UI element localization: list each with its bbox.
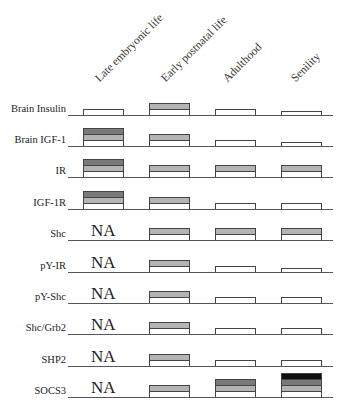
level-bar [83, 128, 124, 146]
row-label: pY-Shc [35, 291, 66, 302]
level-bar [149, 103, 190, 115]
level-bar [149, 291, 190, 303]
level-bar [149, 385, 190, 397]
level-bar [149, 354, 190, 366]
level-bar [281, 111, 322, 115]
level-bar [83, 191, 124, 209]
na-label: NA [91, 253, 116, 273]
level-bar [215, 165, 256, 177]
column-header-0: Late embryonic life [93, 11, 166, 84]
row-label: IGF-1R [33, 197, 66, 208]
column-header-3: Senility [289, 50, 323, 84]
level-bar [149, 197, 190, 209]
level-bar [281, 373, 322, 397]
level-bar [215, 228, 256, 240]
row-label: Brain IGF-1 [14, 134, 66, 145]
level-bar [215, 297, 256, 303]
level-bar [281, 142, 322, 146]
level-bar [149, 228, 190, 240]
level-bar [83, 109, 124, 115]
level-bar [281, 165, 322, 177]
level-bar [281, 268, 322, 272]
level-bar [281, 328, 322, 334]
na-label: NA [91, 315, 116, 335]
row-label: Shc/Grb2 [26, 322, 66, 333]
level-bar [215, 379, 256, 397]
level-bar [215, 360, 256, 366]
row-label: pY-IR [40, 260, 66, 271]
level-bar [149, 322, 190, 334]
level-bar [281, 360, 322, 366]
row-label: SHP2 [41, 354, 66, 365]
column-header-2: Adulthood [221, 41, 264, 84]
column-header-1: Early postnatal life [159, 14, 229, 84]
row-label: Shc [50, 228, 66, 239]
row-baseline [68, 146, 333, 147]
level-bar [281, 203, 322, 209]
na-label: NA [91, 378, 116, 398]
level-bar [215, 140, 256, 146]
level-bar [149, 134, 190, 146]
level-bar [215, 109, 256, 115]
na-label: NA [91, 221, 116, 241]
row-baseline [68, 209, 333, 210]
level-bar [149, 165, 190, 177]
row-label: Brain Insulin [11, 103, 66, 114]
row-label: IR [56, 165, 67, 176]
level-bar [215, 203, 256, 209]
level-bar [83, 159, 124, 177]
level-bar [215, 328, 256, 334]
level-bar [149, 260, 190, 272]
level-bar [215, 266, 256, 272]
row-label: SOCS3 [34, 385, 66, 396]
row-baseline [68, 115, 333, 116]
level-bar [281, 228, 322, 240]
level-bar [281, 297, 322, 303]
na-label: NA [91, 347, 116, 367]
row-baseline [68, 177, 333, 178]
na-label: NA [91, 284, 116, 304]
